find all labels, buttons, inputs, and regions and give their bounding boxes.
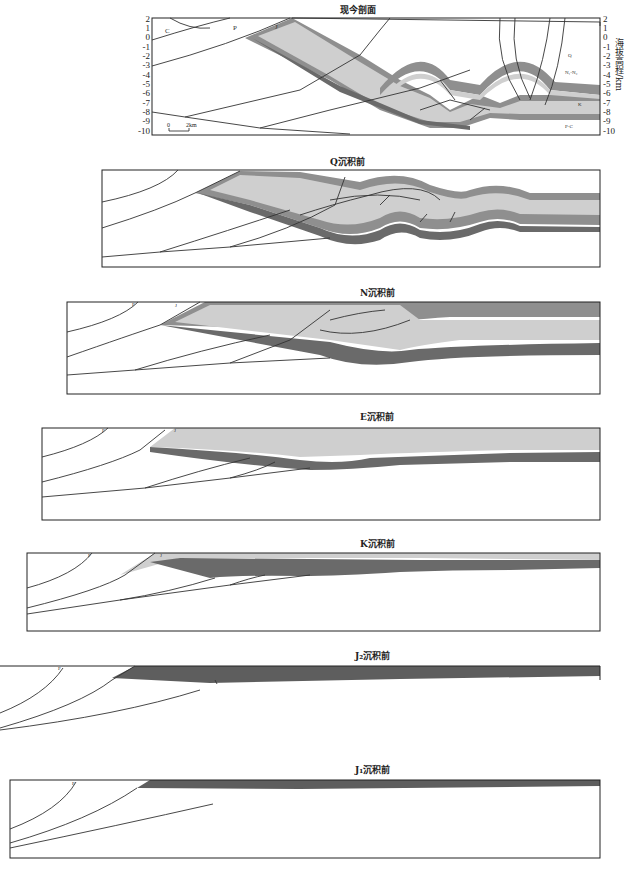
- svg-text:0: 0: [603, 32, 608, 42]
- label-q: Q: [568, 53, 572, 58]
- svg-text:2km: 2km: [186, 122, 197, 128]
- label-k: K: [578, 102, 582, 107]
- svg-text:-9: -9: [143, 116, 151, 126]
- label-j: J: [174, 428, 176, 433]
- label-p: P: [233, 24, 237, 32]
- svg-text:-9: -9: [603, 116, 611, 126]
- cross-section-figure: 2 1 0 -1 -2 -3 -4 -5 -6 -7 -8 -9 -10 2 1…: [0, 0, 627, 870]
- label-pc: P-C: [565, 124, 573, 129]
- panel-pre-n: P J: [67, 302, 600, 394]
- y-axis-ticks-right: 2 1 0 -1 -2 -3 -4 -5 -6 -7 -8 -9 -10: [603, 14, 615, 136]
- svg-text:0: 0: [146, 32, 151, 42]
- svg-text:-10: -10: [138, 126, 150, 136]
- svg-text:-6: -6: [603, 88, 611, 98]
- svg-text:-3: -3: [143, 60, 151, 70]
- label-p: P: [58, 666, 61, 671]
- label-p: P: [132, 302, 135, 307]
- y-axis-ticks-left: 2 1 0 -1 -2 -3 -4 -5 -6 -7 -8 -9 -10: [138, 14, 151, 136]
- panel-pre-j2: P: [0, 666, 600, 730]
- scale-bar: 0 2km: [167, 122, 197, 131]
- panel-pre-q: [102, 170, 600, 267]
- label-c: C: [165, 27, 170, 35]
- panel-pre-j1: P: [10, 780, 600, 858]
- panel-present: 2 1 0 -1 -2 -3 -4 -5 -6 -7 -8 -9 -10 2 1…: [138, 14, 615, 136]
- label-p: P: [102, 428, 105, 433]
- svg-text:0: 0: [167, 122, 170, 128]
- panel-pre-k: P J: [27, 553, 600, 631]
- label-p: P: [88, 553, 91, 558]
- label-j: J: [275, 23, 278, 31]
- svg-text:-10: -10: [603, 126, 615, 136]
- label-j: J: [160, 553, 162, 558]
- label-j: J: [175, 303, 177, 308]
- svg-text:-3: -3: [603, 60, 611, 70]
- panel-pre-e: P J: [42, 428, 600, 520]
- label-p: P: [72, 781, 75, 786]
- label-n: N₁-N₂: [565, 70, 578, 75]
- svg-text:-6: -6: [143, 88, 151, 98]
